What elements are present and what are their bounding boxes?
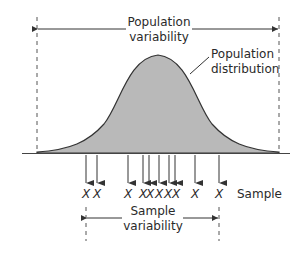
sample-x: X xyxy=(154,187,164,201)
population-distribution-label-line1: Population xyxy=(211,47,274,61)
population-variability-label-line2: variability xyxy=(129,30,189,44)
sample-x: X xyxy=(171,187,181,201)
sample-label: Sample xyxy=(237,187,282,201)
population-variability-label-line1: Population xyxy=(127,15,190,29)
sample-x: X xyxy=(214,187,224,201)
population-distribution-label-line2: distribution xyxy=(211,62,279,76)
sample-x: X xyxy=(190,187,200,201)
sampling-diagram: Population variability Population distri… xyxy=(0,0,308,260)
sample-x: X xyxy=(81,187,91,201)
sample-x: X xyxy=(145,187,155,201)
population-distribution-pointer xyxy=(190,57,209,74)
sample-x: X xyxy=(92,187,102,201)
sample-variability-label-line2: variability xyxy=(123,219,183,233)
sample-variability-label-line1: Sample xyxy=(131,204,176,218)
sample-x: X xyxy=(123,187,133,201)
sampling-arrows xyxy=(86,155,219,183)
sample-markers: X X X X X X X X X X xyxy=(81,187,224,201)
